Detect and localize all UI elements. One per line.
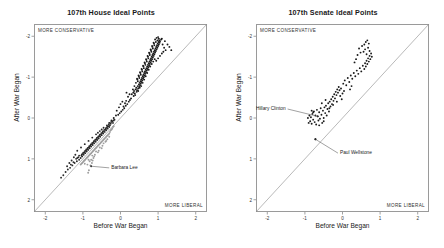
data-point (366, 39, 368, 41)
x-axis-title-house: Before War Began (34, 222, 207, 229)
data-point (100, 132, 102, 134)
data-point (117, 114, 119, 116)
data-point (154, 58, 156, 60)
data-point (347, 77, 349, 79)
data-point (83, 160, 85, 162)
data-point (336, 88, 338, 90)
annotation-label: Barbara Lee (111, 165, 137, 170)
x-tick-label: 0 (119, 216, 122, 221)
scatter-svg-house (34, 24, 207, 212)
plot-area-senate: MORE CONSERVATIVE MORE LIBERAL (256, 24, 429, 212)
x-tick-label: -2 (265, 216, 269, 221)
data-point (97, 151, 99, 153)
data-point (116, 110, 118, 112)
data-point (328, 111, 330, 113)
data-point (148, 69, 150, 71)
data-point (130, 97, 132, 99)
data-point (320, 107, 322, 109)
data-point (76, 160, 78, 162)
data-point (119, 112, 121, 114)
data-point (322, 110, 324, 112)
data-point (66, 165, 68, 167)
data-point (141, 79, 143, 81)
data-point (89, 153, 91, 155)
data-point (134, 94, 136, 96)
data-point (84, 150, 86, 152)
data-point (144, 62, 146, 64)
data-point (340, 88, 342, 90)
data-point (310, 116, 312, 118)
data-point (164, 40, 166, 42)
data-point (97, 135, 99, 137)
data-point (159, 40, 161, 42)
annotation-label: Hillary Clinton (256, 106, 286, 111)
data-point (96, 137, 98, 139)
data-point (155, 41, 157, 43)
data-point (369, 50, 371, 52)
data-point (143, 79, 145, 81)
data-point (139, 72, 141, 74)
data-point (88, 159, 90, 161)
data-point (150, 51, 152, 53)
data-point (318, 124, 320, 126)
data-point (157, 36, 159, 38)
data-point (146, 59, 148, 61)
data-point (102, 145, 104, 147)
y-tick-label: 2 (27, 197, 30, 202)
data-point (150, 61, 152, 63)
data-point (94, 154, 96, 156)
data-point (141, 70, 143, 72)
data-point (355, 58, 357, 60)
data-point (320, 114, 322, 116)
data-point (363, 51, 365, 53)
data-point (122, 109, 124, 111)
data-point (365, 66, 367, 68)
x-tick-label: -2 (43, 216, 47, 221)
data-point (312, 111, 314, 113)
data-point (149, 66, 151, 68)
data-point (151, 58, 153, 60)
data-point (82, 152, 84, 154)
data-point (152, 46, 154, 48)
data-point (157, 57, 159, 59)
data-point (351, 85, 353, 87)
data-point (123, 107, 125, 109)
data-point (73, 161, 75, 163)
data-point (325, 105, 327, 107)
data-point (144, 73, 146, 75)
data-point (321, 122, 323, 124)
data-point (366, 53, 368, 55)
series-democrats (60, 119, 115, 179)
data-point (95, 151, 97, 153)
data-point (92, 150, 94, 152)
data-point (120, 111, 122, 113)
data-point (350, 75, 352, 77)
data-point (353, 72, 355, 74)
data-point (105, 140, 107, 142)
data-point (73, 156, 75, 158)
data-point (326, 115, 328, 117)
data-point (153, 55, 155, 57)
data-point (103, 142, 105, 144)
data-point (364, 62, 366, 64)
data-point (70, 164, 72, 166)
data-point (324, 112, 326, 114)
data-point (103, 138, 105, 140)
data-point (336, 101, 338, 103)
data-point (125, 105, 127, 107)
data-point (140, 74, 142, 76)
data-point (108, 136, 110, 138)
data-point (67, 169, 69, 171)
y-tick-label: 2 (249, 197, 252, 202)
data-point (351, 78, 353, 80)
data-point (147, 56, 149, 58)
data-point (60, 177, 62, 179)
data-point (165, 49, 167, 51)
data-point (330, 98, 332, 100)
data-point (145, 75, 147, 77)
data-point (358, 48, 360, 50)
x-tick-label: 1 (379, 216, 382, 221)
data-point (103, 127, 105, 129)
series-highlight-barbara-lee (90, 165, 92, 167)
data-point (88, 169, 90, 171)
